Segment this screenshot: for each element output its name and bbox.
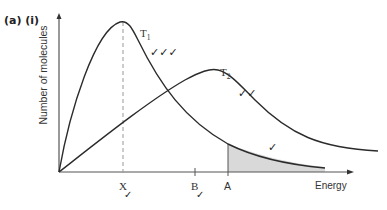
curve-t1-marks: ✓✓✓ <box>150 46 178 58</box>
tick-x-mark: ✓ <box>124 189 132 200</box>
energy-distribution-diagram: Number of molecules Energy T1 ✓✓✓ T2 ✓✓ … <box>0 0 387 210</box>
curve-t2 <box>59 69 378 172</box>
tick-label-a: A <box>224 180 231 192</box>
x-axis-arrow-icon <box>347 170 354 175</box>
shaded-area-mark: ✓ <box>268 141 277 153</box>
curve-t1-label: T1 <box>140 27 151 42</box>
curve-t1 <box>59 22 325 172</box>
tick-b-mark: ✓ <box>196 189 204 200</box>
curve-t2-label: T2 <box>220 66 231 81</box>
x-axis-label: Energy <box>315 180 347 191</box>
curve-t2-marks: ✓✓ <box>238 87 256 99</box>
y-axis-label: Number of molecules <box>37 25 49 124</box>
y-axis-arrow-icon <box>57 13 62 19</box>
